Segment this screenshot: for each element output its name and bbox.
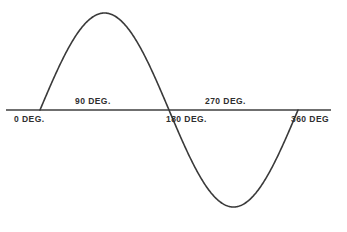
- axis-label-0-deg: 0 DEG.: [14, 115, 45, 124]
- sine-wave-figure: 0 DEG. 90 DEG. 180 DEG. 270 DEG. 360 DEG: [0, 0, 347, 232]
- axis-label-270-deg: 270 DEG.: [205, 97, 246, 106]
- axis-label-180-deg: 180 DEG.: [166, 115, 207, 124]
- axis-label-360-deg: 360 DEG: [291, 115, 329, 124]
- axis-label-90-deg: 90 DEG.: [75, 97, 111, 106]
